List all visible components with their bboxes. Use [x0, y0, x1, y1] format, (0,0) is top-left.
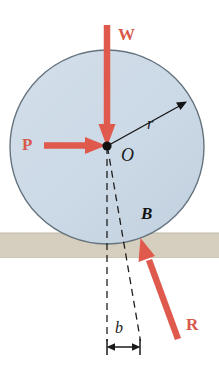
- center-point-dot: [102, 141, 111, 150]
- force-label-P: P: [22, 136, 32, 153]
- free-body-diagram-svg: [0, 0, 219, 366]
- dimension-b: [107, 339, 141, 355]
- radius-label-r: r: [147, 116, 153, 132]
- force-label-W: W: [118, 26, 135, 43]
- figure-root: W P R O r B b: [0, 0, 219, 366]
- point-label-B: B: [141, 205, 152, 222]
- force-label-R: R: [186, 316, 198, 333]
- point-label-O: O: [121, 146, 134, 164]
- dimension-label-b: b: [115, 320, 123, 336]
